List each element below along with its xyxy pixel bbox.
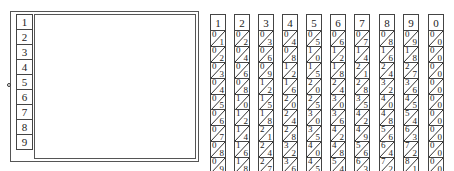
index-cell: 6 [16,89,33,105]
tens-digit: 4 [308,158,313,167]
tens-digit: 3 [284,142,289,151]
tens-digit: 1 [284,63,289,72]
units-digit: 5 [268,100,273,110]
tens-digit: 2 [284,110,289,119]
napier-rod[interactable]: 7071421283542495663 [354,14,370,171]
rod-cell: 81 [403,158,419,171]
units-digit: 2 [340,132,345,142]
rod-cell: 56 [379,126,395,142]
rod-cell: 24 [379,63,395,79]
units-digit: 6 [244,148,249,158]
rod-cell: 00 [428,110,444,126]
units-digit: 8 [244,85,249,95]
tens-digit: 0 [405,31,410,40]
tens-digit: 8 [405,158,410,167]
tens-digit: 1 [236,142,241,151]
rod-cell: 14 [234,126,250,142]
napier-rod[interactable]: 5051015202530354045 [306,14,322,171]
tens-digit: 0 [236,63,241,72]
tens-digit: 1 [260,95,265,104]
tens-digit: 4 [381,95,386,104]
tens-digit: 1 [236,158,241,167]
rod-cell: 32 [282,142,298,158]
rod-cell: 45 [306,158,322,171]
rod-cell: 00 [428,95,444,111]
index-cell: 2 [16,29,33,45]
units-digit: 0 [316,53,321,63]
units-digit: 4 [389,148,394,158]
units-digit: 5 [413,100,418,110]
rod-cell: 48 [330,142,346,158]
rod-cell: 72 [403,142,419,158]
units-digit: 8 [244,164,249,171]
units-digit: 2 [244,37,249,47]
napier-rod[interactable]: 2020406081012141618 [234,14,250,171]
rod-cell: 21 [258,126,274,142]
rod-cell: 02 [234,31,250,47]
tens-digit: 7 [405,142,410,151]
rod-cell: 00 [428,126,444,142]
tens-digit: 2 [260,126,265,135]
units-digit: 5 [316,100,321,110]
rod-cell: 04 [210,79,226,95]
tens-digit: 1 [308,63,313,72]
napier-rod[interactable]: 4040812162024283236 [282,14,298,171]
napier-rod[interactable]: 0000000000000000000 [428,14,444,171]
napier-rod[interactable]: 1010203040506070809 [210,14,226,171]
tens-digit: 5 [356,142,361,151]
units-digit: 3 [413,132,418,142]
tens-digit: 0 [212,63,217,72]
index-cell: 9 [16,134,33,150]
napier-rod[interactable]: 6061218243036424854 [330,14,346,171]
rod-cell: 05 [210,95,226,111]
units-digit: 0 [438,85,443,95]
tens-digit: 0 [212,158,217,167]
rod-cell: 12 [282,63,298,79]
units-digit: 0 [316,116,321,126]
tens-digit: 2 [381,63,386,72]
rod-cell: 42 [354,110,370,126]
rod-cell: 05 [306,31,322,47]
rod-head: 7 [354,14,370,31]
units-digit: 6 [292,164,297,171]
rod-cell: 72 [379,158,395,171]
units-digit: 2 [292,69,297,79]
tens-digit: 5 [405,110,410,119]
units-digit: 6 [413,85,418,95]
units-digit: 2 [389,164,394,171]
rod-cell: 18 [403,47,419,63]
tens-digit: 1 [308,47,313,56]
units-digit: 2 [244,116,249,126]
tens-digit: 5 [332,158,337,167]
units-digit: 6 [340,37,345,47]
tens-digit: 4 [405,95,410,104]
rod-cell: 24 [258,142,274,158]
tens-digit: 2 [308,95,313,104]
rod-cell: 04 [282,31,298,47]
rod-cell: 04 [234,47,250,63]
rod-cell: 30 [330,95,346,111]
rod-cell: 06 [258,47,274,63]
index-column: 123456789 [16,14,33,150]
tens-digit: 2 [332,79,337,88]
index-cell: 1 [16,14,33,30]
units-digit: 3 [268,37,273,47]
tens-digit: 3 [405,79,410,88]
rod-cell: 63 [403,126,419,142]
units-digit: 4 [268,148,273,158]
napier-rod[interactable]: 9091827364554637281 [403,14,419,171]
rod-cell: 54 [330,158,346,171]
units-digit: 4 [340,164,345,171]
napier-rod[interactable]: 8081624324048566472 [379,14,395,171]
tens-digit: 3 [381,79,386,88]
tens-digit: 0 [260,63,265,72]
tens-digit: 1 [260,110,265,119]
napier-rod[interactable]: 3030609121518212427 [258,14,274,171]
rod-cell: 06 [330,31,346,47]
units-digit: 6 [364,148,369,158]
tens-digit: 3 [308,126,313,135]
index-cell: 5 [16,74,33,90]
tens-digit: 0 [430,47,435,56]
rod-cell: 18 [234,158,250,171]
tens-digit: 6 [381,142,386,151]
